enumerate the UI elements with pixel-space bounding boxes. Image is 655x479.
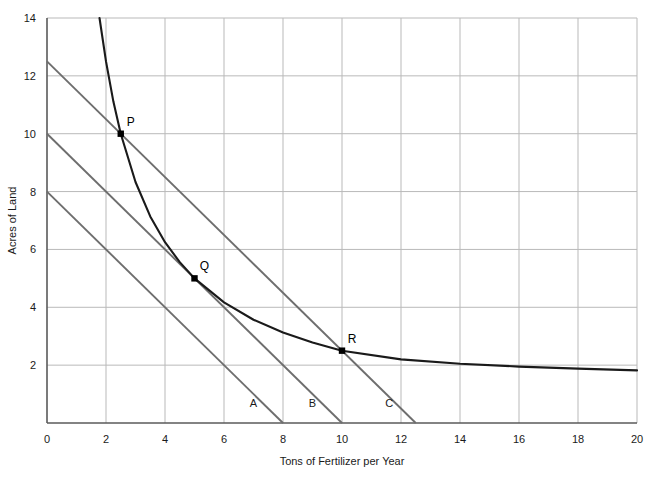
x-tick-label-6: 6 xyxy=(221,433,227,445)
x-tick-label-4: 4 xyxy=(162,433,168,445)
point-label-R: R xyxy=(348,332,357,346)
isocost-label-A: A xyxy=(250,397,258,409)
x-tick-label-10: 10 xyxy=(336,433,348,445)
x-tick-label-16: 16 xyxy=(513,433,525,445)
y-tick-label-4: 4 xyxy=(30,301,36,313)
isocost-label-C: C xyxy=(385,397,393,409)
y-tick-label-2: 2 xyxy=(30,359,36,371)
point-label-P: P xyxy=(127,115,135,129)
chart-container: 024681012141618202468101214 PQR ABC Tons… xyxy=(0,0,655,479)
point-marker-R xyxy=(339,347,345,353)
x-tick-label-18: 18 xyxy=(572,433,584,445)
y-tick-label-6: 6 xyxy=(30,243,36,255)
isocost-label-B: B xyxy=(309,397,316,409)
isoquant-isocost-chart: 024681012141618202468101214 PQR ABC Tons… xyxy=(0,0,655,479)
y-tick-label-10: 10 xyxy=(24,128,36,140)
y-tick-label-14: 14 xyxy=(24,12,36,24)
chart-background xyxy=(0,0,655,479)
x-axis-title: Tons of Fertilizer per Year xyxy=(280,455,405,467)
x-tick-label-14: 14 xyxy=(454,433,466,445)
x-tick-label-2: 2 xyxy=(103,433,109,445)
x-tick-label-0: 0 xyxy=(44,433,50,445)
y-tick-label-12: 12 xyxy=(24,70,36,82)
y-axis-title: Acres of Land xyxy=(6,187,18,255)
point-marker-P xyxy=(118,131,124,137)
y-tick-label-8: 8 xyxy=(30,186,36,198)
x-tick-label-12: 12 xyxy=(395,433,407,445)
x-tick-label-20: 20 xyxy=(631,433,643,445)
point-label-Q: Q xyxy=(200,259,209,273)
point-marker-Q xyxy=(191,275,197,281)
x-tick-label-8: 8 xyxy=(280,433,286,445)
